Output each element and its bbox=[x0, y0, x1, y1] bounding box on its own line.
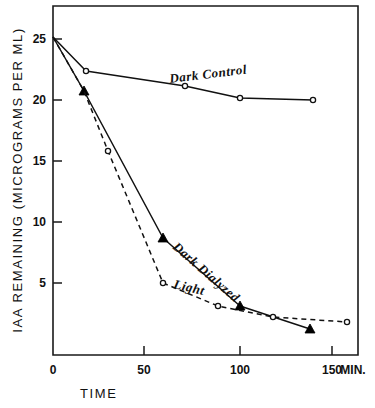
chart-plot-area: 25 20 15 10 5 0 50 100 150 MIN. TIME IAA… bbox=[0, 0, 375, 408]
data-point bbox=[237, 95, 242, 100]
data-point bbox=[270, 314, 275, 319]
data-point bbox=[344, 319, 349, 324]
y-tick-label-25: 25 bbox=[33, 32, 47, 46]
y-tick-label-5: 5 bbox=[39, 276, 46, 290]
data-point bbox=[105, 148, 110, 153]
x-tick-label-150: 150 bbox=[322, 363, 342, 377]
y-tick-label-15: 15 bbox=[33, 154, 47, 168]
y-axis-ticks bbox=[53, 39, 62, 283]
x-tick-label-100: 100 bbox=[230, 363, 250, 377]
x-tick-label-0: 0 bbox=[50, 363, 57, 377]
y-tick-label-10: 10 bbox=[33, 215, 47, 229]
data-point bbox=[160, 280, 165, 285]
data-point bbox=[215, 303, 220, 308]
data-point bbox=[158, 233, 168, 242]
x-axis-ticks bbox=[144, 346, 332, 355]
plot-frame bbox=[53, 6, 358, 355]
series-label-dark-dialyzed: Dark Dialyzed bbox=[169, 238, 243, 305]
x-axis-title: TIME bbox=[80, 386, 117, 401]
data-point bbox=[79, 86, 89, 95]
x-tick-label-50: 50 bbox=[137, 363, 151, 377]
y-axis-title: IAA REMAINING (MICROGRAMS PER ML) bbox=[10, 27, 25, 333]
x-axis-unit-label: MIN. bbox=[340, 363, 365, 377]
chart-figure: 25 20 15 10 5 0 50 100 150 MIN. TIME IAA… bbox=[0, 0, 375, 408]
series-label-light: Light bbox=[171, 276, 206, 298]
series-label-dark-control: Dark Control bbox=[168, 62, 248, 87]
data-point bbox=[83, 68, 88, 73]
y-tick-label-20: 20 bbox=[33, 93, 47, 107]
data-point bbox=[310, 97, 315, 102]
